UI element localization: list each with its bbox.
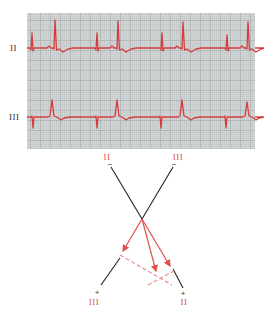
plus-sign-iii: + [95,288,100,297]
ecg-strip [27,13,264,149]
lead-label-iii: III [9,112,20,122]
projection-dashed-line-2 [148,271,174,285]
vector-arrow-2 [142,219,156,271]
lead-labels: IIIII [9,43,20,122]
lead-axis-ii-negative [111,167,142,219]
ecg-figure: IIIII II−+IIIII−+III [0,0,264,316]
axis-label-iii-positive: III [89,297,100,307]
lead-label-ii: II [10,43,17,53]
lead-axis-iii-negative [142,167,173,219]
axis-diagram: II−+IIIII−+III [89,152,188,307]
vector-arrow-1 [123,219,142,251]
vector-arrow-3 [142,219,170,266]
grid-lines [27,13,255,149]
minus-sign-ii: − [108,160,113,169]
lead-axis-iii-positive [101,258,120,285]
axis-label-ii-positive: II [181,297,188,307]
projection-dashed-line-1 [120,255,172,285]
minus-sign-iii: − [172,160,177,169]
lead-axis-ii-positive [173,269,183,288]
